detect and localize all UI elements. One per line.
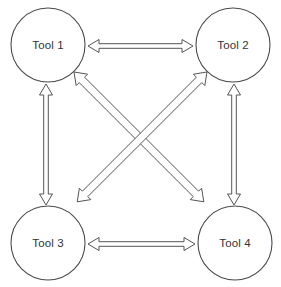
connector-tool1-tool3[interactable] bbox=[40, 84, 53, 205]
node-tool4[interactable]: Tool 4 bbox=[198, 206, 272, 280]
node-tool2-label: Tool 2 bbox=[217, 39, 248, 51]
node-tool1[interactable]: Tool 1 bbox=[11, 8, 85, 82]
tool-network-diagram: Tool 1 Tool 2 Tool 3 Tool 4 bbox=[0, 0, 281, 287]
node-tool1-label: Tool 1 bbox=[32, 39, 63, 51]
diagram-canvas: Tool 1 Tool 2 Tool 3 Tool 4 bbox=[0, 0, 281, 287]
node-tool2[interactable]: Tool 2 bbox=[196, 8, 270, 82]
node-tool3-label: Tool 3 bbox=[32, 237, 63, 249]
connector-tool1-tool2[interactable] bbox=[88, 40, 193, 53]
connector-tool2-tool4[interactable] bbox=[228, 84, 241, 205]
node-tool4-label: Tool 4 bbox=[219, 237, 251, 249]
node-tool3[interactable]: Tool 3 bbox=[11, 206, 85, 280]
connector-tool3-tool4[interactable] bbox=[88, 238, 195, 251]
